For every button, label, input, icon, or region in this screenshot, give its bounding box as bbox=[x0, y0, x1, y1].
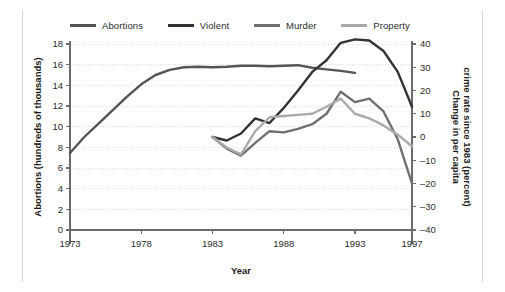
y-tick-18: 18 bbox=[52, 38, 63, 49]
series-line-murder bbox=[213, 92, 413, 184]
y-tick-0: 0 bbox=[58, 224, 63, 235]
y2-tick--40: –40 bbox=[420, 224, 436, 235]
chart-figure: Abortions Violent Murder Property 024681… bbox=[0, 0, 505, 292]
x-tick-1988: 1988 bbox=[273, 238, 294, 249]
y-tick-12: 12 bbox=[52, 100, 63, 111]
y2-tick-10: 10 bbox=[420, 108, 431, 119]
y2-tick--10: –10 bbox=[420, 155, 436, 166]
axis-lines bbox=[70, 41, 412, 244]
y-tick-10: 10 bbox=[52, 121, 63, 132]
x-axis-tick-labels: 197319781983198819931997 bbox=[59, 238, 422, 249]
right-axis-title-line-1: Change in per capita bbox=[451, 90, 462, 184]
x-axis-title: Year bbox=[231, 265, 251, 276]
y2-tick-30: 30 bbox=[420, 62, 431, 73]
right-axis-title: Change in per capitacrime rate since 198… bbox=[451, 67, 473, 206]
right-axis-title-line-2: crime rate since 1983 (percent) bbox=[462, 67, 473, 206]
y-axis-tick-labels: 024681012141618 bbox=[52, 38, 63, 235]
y2-tick--30: –30 bbox=[420, 201, 436, 212]
x-tick-1978: 1978 bbox=[131, 238, 152, 249]
y2-tick-40: 40 bbox=[420, 38, 431, 49]
y-tick-2: 2 bbox=[58, 204, 63, 215]
x-tick-1973: 1973 bbox=[59, 238, 80, 249]
x-tick-1997: 1997 bbox=[401, 238, 422, 249]
y-tick-4: 4 bbox=[58, 183, 63, 194]
tick-marks bbox=[66, 44, 416, 234]
y-tick-8: 8 bbox=[58, 142, 63, 153]
y2-tick--20: –20 bbox=[420, 178, 436, 189]
y-tick-6: 6 bbox=[58, 162, 63, 173]
gridlines bbox=[70, 44, 412, 230]
y-tick-16: 16 bbox=[52, 59, 63, 70]
plot-area: 024681012141618 –40–30–20–10010203040 19… bbox=[0, 0, 505, 292]
y-tick-14: 14 bbox=[52, 80, 63, 91]
x-tick-1983: 1983 bbox=[202, 238, 223, 249]
series-line-abortions bbox=[70, 65, 355, 153]
y2-axis-tick-labels: –40–30–20–10010203040 bbox=[420, 38, 436, 235]
x-tick-1993: 1993 bbox=[344, 238, 365, 249]
y2-tick-0: 0 bbox=[420, 131, 425, 142]
data-series bbox=[70, 39, 412, 183]
y2-tick-20: 20 bbox=[420, 85, 431, 96]
left-axis-title: Abortions (hundreds of thousands) bbox=[32, 57, 43, 216]
